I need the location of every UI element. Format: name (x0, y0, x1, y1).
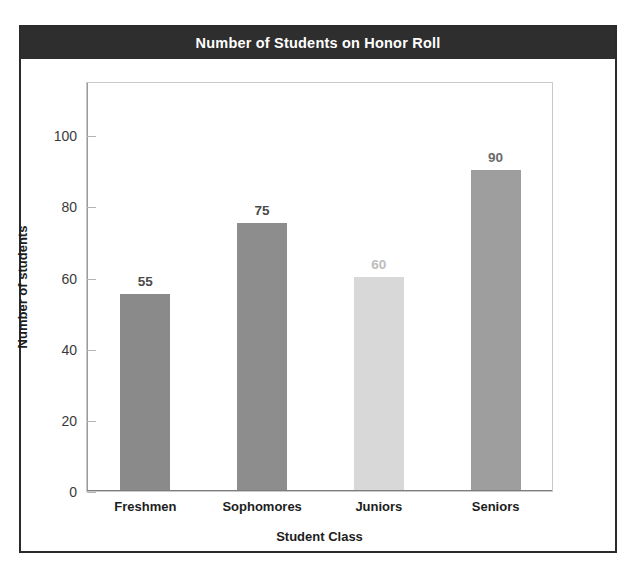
y-tick-label: 100 (54, 128, 77, 144)
x-category-label: Seniors (472, 499, 520, 514)
chart-title: Number of Students on Honor Roll (196, 35, 441, 51)
plot-area: 020406080100 55Freshmen75Sophomores60Jun… (86, 82, 553, 492)
x-axis-spine (87, 490, 552, 491)
chart-title-band: Number of Students on Honor Roll (21, 27, 615, 59)
x-category-label: Freshmen (114, 499, 176, 514)
y-tick-mark (87, 492, 96, 493)
figure-frame: Number of Students on Honor Roll 0204060… (19, 25, 617, 553)
y-tick-mark (87, 207, 96, 208)
bar-value-label: 90 (488, 150, 503, 165)
bar[interactable]: 75Sophomores (237, 223, 287, 490)
y-tick-mark (87, 350, 96, 351)
y-tick-mark (87, 136, 96, 137)
y-tick-label: 20 (61, 413, 77, 429)
bar[interactable]: 60Juniors (354, 277, 404, 490)
y-tick-label: 80 (61, 199, 77, 215)
bar[interactable]: 55Freshmen (120, 294, 170, 490)
x-category-label: Juniors (355, 499, 402, 514)
bar-value-label: 55 (138, 274, 153, 289)
y-tick-label: 60 (61, 271, 77, 287)
bar[interactable]: 90Seniors (471, 170, 521, 490)
y-tick-label: 0 (69, 484, 77, 500)
chart-screenshot: Number of Students on Honor Roll 0204060… (0, 0, 633, 576)
y-axis-title: Number of students (15, 82, 33, 492)
y-axis-spine (87, 83, 88, 491)
y-tick-mark (87, 421, 96, 422)
y-tick-mark (87, 279, 96, 280)
bar-value-label: 60 (371, 257, 386, 272)
bar-value-label: 75 (255, 203, 270, 218)
x-axis-title: Student Class (86, 529, 553, 544)
y-tick-label: 40 (61, 342, 77, 358)
x-category-label: Sophomores (222, 499, 301, 514)
